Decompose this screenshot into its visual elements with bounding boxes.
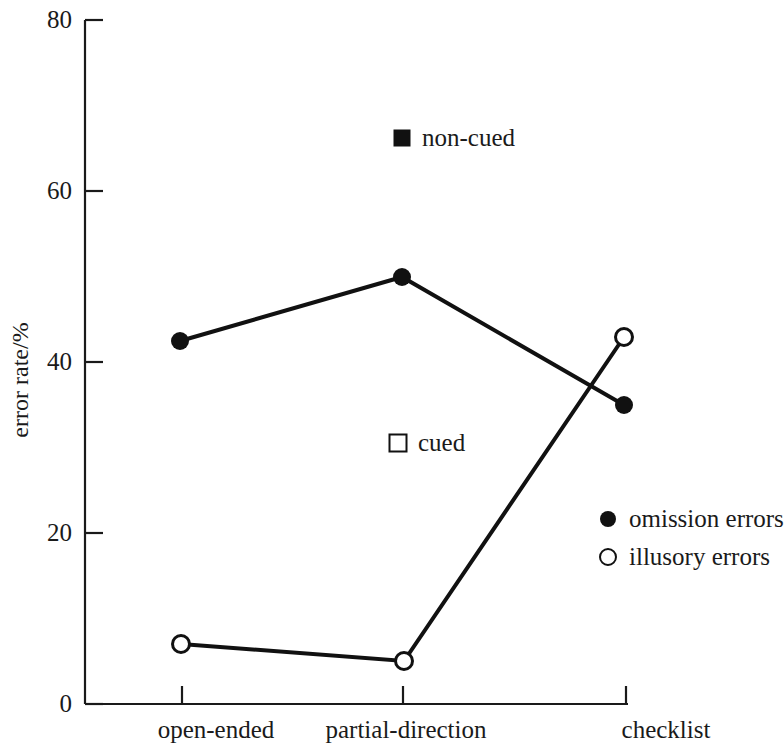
data-point-omission-partial-direction bbox=[393, 268, 411, 286]
series-omission-errors bbox=[171, 268, 633, 414]
data-point-illusory-partial-direction bbox=[396, 653, 413, 670]
legend-label-cued: cued bbox=[418, 429, 465, 457]
x-tick-label-partial-direction: partial-direction bbox=[325, 716, 486, 744]
x-tick-marks bbox=[182, 686, 626, 704]
legend-label-illusory-errors: illusory errors bbox=[629, 543, 770, 571]
legend-label-omission-errors: omission errors bbox=[629, 505, 784, 533]
y-tick-label-60: 60 bbox=[20, 177, 72, 205]
y-tick-label-80: 80 bbox=[20, 6, 72, 34]
y-tick-label-0: 0 bbox=[20, 690, 72, 718]
x-tick-label-checklist: checklist bbox=[622, 716, 711, 744]
x-tick-label-open-ended: open-ended bbox=[158, 716, 275, 744]
data-point-omission-open-ended bbox=[171, 332, 189, 350]
y-tick-label-20: 20 bbox=[20, 519, 72, 547]
y-tick-marks bbox=[85, 20, 103, 704]
data-point-omission-checklist bbox=[615, 396, 633, 414]
data-point-illusory-checklist bbox=[616, 329, 633, 346]
y-tick-label-40: 40 bbox=[20, 348, 72, 376]
open-square-icon bbox=[389, 434, 408, 453]
filled-square-icon bbox=[394, 130, 411, 147]
open-circle-icon bbox=[599, 548, 617, 566]
data-point-illusory-open-ended bbox=[173, 636, 190, 653]
legend-label-non-cued: non-cued bbox=[422, 124, 515, 152]
series-illusory-errors bbox=[173, 329, 633, 670]
y-axis-title: error rate/% bbox=[7, 322, 34, 437]
filled-circle-icon bbox=[600, 511, 616, 527]
